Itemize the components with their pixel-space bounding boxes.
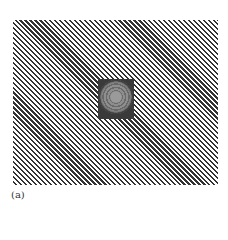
concentric-rings	[99, 80, 133, 114]
stripe-grating	[13, 20, 218, 185]
figure-label: (a)	[11, 189, 25, 200]
ring-core	[110, 91, 122, 103]
center-inset	[98, 79, 134, 119]
